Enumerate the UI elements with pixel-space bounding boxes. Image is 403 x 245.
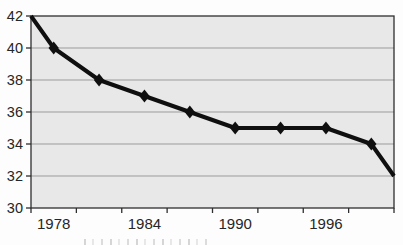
- y-axis-tick-label: 40: [7, 40, 23, 56]
- x-axis-tick-label: 1990: [219, 215, 252, 232]
- y-axis-tick-label: 30: [7, 200, 23, 216]
- y-axis-tick-label: 38: [7, 72, 23, 88]
- line-chart-figure: 424038363432301978198419901996: [0, 0, 403, 245]
- y-axis-tick-label: 34: [7, 136, 23, 152]
- y-axis-tick-label: 42: [7, 8, 23, 24]
- cropped-caption-fragment: [84, 239, 210, 245]
- x-axis-tick-label: 1996: [309, 215, 342, 232]
- line-chart-canvas: 424038363432301978198419901996: [0, 0, 403, 245]
- x-axis-tick-label: 1978: [37, 215, 70, 232]
- y-axis-tick-label: 32: [7, 168, 23, 184]
- x-axis-tick-label: 1984: [128, 215, 161, 232]
- y-axis-tick-label: 36: [7, 104, 23, 120]
